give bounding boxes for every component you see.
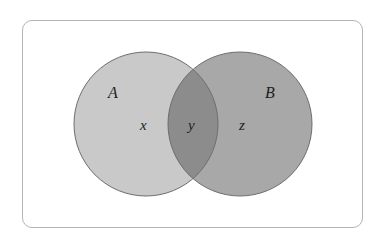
region-z-label: z	[238, 117, 245, 133]
set-a-label: A	[107, 84, 118, 101]
region-y-label: y	[186, 117, 195, 133]
region-x-label: x	[139, 117, 147, 133]
set-b-label: B	[265, 84, 275, 101]
venn-diagram: A B x y z	[0, 0, 392, 236]
